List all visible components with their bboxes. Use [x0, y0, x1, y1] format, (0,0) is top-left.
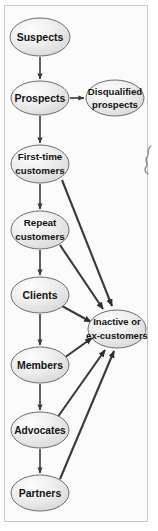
- node-repeat-customers-label-line2: customers: [15, 231, 65, 242]
- node-members-label: Members: [17, 359, 63, 371]
- node-disqualified-prospects-label-line1: Disqualified: [88, 86, 143, 97]
- node-repeat-customers[interactable]: Repeat customers: [11, 211, 69, 249]
- node-partners-label: Partners: [19, 487, 62, 499]
- node-partners[interactable]: Partners: [11, 475, 69, 511]
- node-first-time-customers[interactable]: First-time customers: [11, 145, 69, 183]
- node-prospects[interactable]: Prospects: [11, 81, 69, 115]
- node-repeat-customers-label-line1: Repeat: [24, 217, 57, 228]
- node-advocates-label: Advocates: [14, 425, 66, 436]
- node-inactive-or-ex-customers-label-line1: Inactive or: [93, 316, 141, 327]
- node-disqualified-prospects[interactable]: Disqualified prospects: [86, 80, 144, 116]
- node-advocates[interactable]: Advocates: [11, 412, 69, 448]
- node-clients-label: Clients: [22, 289, 57, 301]
- node-clients[interactable]: Clients: [11, 277, 69, 313]
- node-prospects-label: Prospects: [15, 92, 66, 104]
- node-disqualified-prospects-label-line2: prospects: [92, 99, 138, 110]
- node-suspects-label: Suspects: [17, 31, 64, 43]
- diagram-canvas: Suspects Prospects Disqualified prospect…: [0, 0, 158, 531]
- node-inactive-or-ex-customers-label-line2: ex-customers: [86, 330, 148, 341]
- node-suspects[interactable]: Suspects: [10, 18, 70, 56]
- node-first-time-customers-label-line1: First-time: [18, 151, 63, 162]
- node-members[interactable]: Members: [11, 347, 69, 383]
- node-first-time-customers-label-line2: customers: [15, 165, 65, 176]
- lifecycle-diagram: Suspects Prospects Disqualified prospect…: [0, 0, 158, 531]
